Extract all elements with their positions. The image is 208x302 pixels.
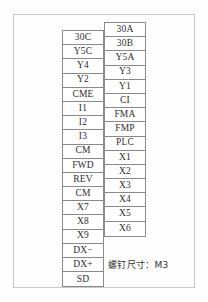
terminal-cell-right-0: 30A	[105, 23, 145, 37]
terminal-cell-right-12: X4	[105, 193, 145, 207]
terminal-cell-left-15: DX−	[63, 244, 103, 258]
terminal-cell-right-5: CI	[105, 94, 145, 108]
terminal-cell-left-13: X8	[63, 215, 103, 229]
terminal-cell-left-12: X7	[63, 201, 103, 215]
terminal-cell-left-11: CM	[63, 187, 103, 201]
terminal-cell-right-10: X2	[105, 165, 145, 179]
terminal-cell-left-14: X9	[63, 230, 103, 244]
terminal-cell-left-0: 30C	[63, 31, 103, 45]
terminal-cell-right-4: Y1	[105, 80, 145, 94]
terminal-cell-right-3: Y3	[105, 66, 145, 80]
terminal-cell-right-14: X6	[105, 222, 145, 236]
terminal-cell-left-8: CM	[63, 145, 103, 159]
terminal-cell-left-16: DX+	[63, 258, 103, 272]
terminal-cell-left-5: I1	[63, 102, 103, 116]
terminal-cell-right-11: X3	[105, 179, 145, 193]
terminal-cell-left-10: REV	[63, 173, 103, 187]
terminal-cell-right-6: FMA	[105, 108, 145, 122]
terminal-cell-left-2: Y4	[63, 59, 103, 73]
right-terminal-column: 30A30BY5AY3Y1CIFMAFMPPLCX1X2X3X4X5X6	[104, 22, 146, 237]
terminal-cell-left-4: CME	[63, 88, 103, 102]
terminal-cell-right-7: FMP	[105, 122, 145, 136]
terminal-block-figure: 30CY5CY4Y2CMEI1I2I3CMFWDREVCMX7X8X9DX−DX…	[0, 0, 208, 302]
terminal-cell-right-9: X1	[105, 151, 145, 165]
terminal-cell-right-8: PLC	[105, 137, 145, 151]
terminal-cell-left-17: SD	[63, 272, 103, 286]
terminal-cell-right-2: Y5A	[105, 51, 145, 65]
terminal-cell-left-9: FWD	[63, 159, 103, 173]
terminal-cell-left-7: I3	[63, 130, 103, 144]
terminal-cell-right-13: X5	[105, 207, 145, 221]
screw-size-note: 螺钉尺寸：M3	[108, 258, 169, 271]
terminal-cell-left-3: Y2	[63, 74, 103, 88]
terminal-cell-left-1: Y5C	[63, 45, 103, 59]
terminal-cell-left-6: I2	[63, 116, 103, 130]
left-terminal-column: 30CY5CY4Y2CMEI1I2I3CMFWDREVCMX7X8X9DX−DX…	[62, 30, 104, 287]
terminal-cell-right-1: 30B	[105, 37, 145, 51]
